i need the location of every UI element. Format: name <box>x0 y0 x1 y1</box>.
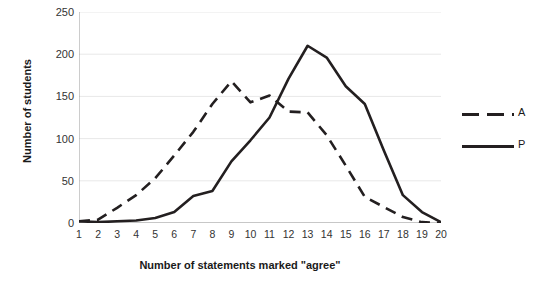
x-axis-tick-label: 14 <box>317 228 337 240</box>
x-axis-tick-label: 10 <box>240 228 260 240</box>
plot-area <box>79 12 441 223</box>
x-axis-tick-label: 2 <box>88 228 108 240</box>
x-axis-tick-label: 19 <box>412 228 432 240</box>
y-axis-tick-label: 0 <box>40 218 74 228</box>
x-axis-tick-labels: 1234567891011121314151617181920 <box>79 228 441 244</box>
y-axis-tick-label: 250 <box>40 7 74 17</box>
x-axis-tick-label: 8 <box>202 228 222 240</box>
x-axis-tick-label: 17 <box>374 228 394 240</box>
x-axis-title: Number of statements marked "agree" <box>60 259 420 271</box>
y-axis-tick-label: 200 <box>40 49 74 59</box>
y-axis-title: Number of students <box>21 26 33 196</box>
x-axis-tick-label: 18 <box>393 228 413 240</box>
legend-item-P[interactable]: P <box>462 136 536 168</box>
x-axis-tick-label: 4 <box>126 228 146 240</box>
x-axis-tick-label: 12 <box>279 228 299 240</box>
x-axis-tick-label: 20 <box>431 228 451 240</box>
x-axis-tick-label: 16 <box>355 228 375 240</box>
x-axis-tick-label: 15 <box>336 228 356 240</box>
legend-label-A: A <box>518 106 525 118</box>
x-axis-tick-label: 11 <box>260 228 280 240</box>
legend-swatch-P <box>462 145 514 148</box>
chart-plot-svg <box>79 12 441 223</box>
legend-item-A[interactable]: A <box>462 104 536 136</box>
x-axis-tick-label: 3 <box>107 228 127 240</box>
data-series-A <box>79 81 441 223</box>
y-axis-tick-label: 100 <box>40 134 74 144</box>
x-axis-tick-label: 5 <box>145 228 165 240</box>
y-axis-tick-label: 150 <box>40 91 74 101</box>
legend-swatch-A <box>462 113 514 116</box>
x-axis-tick-label: 13 <box>298 228 318 240</box>
x-axis-tick-label: 1 <box>69 228 89 240</box>
x-axis-tick-label: 9 <box>221 228 241 240</box>
y-axis-tick-labels: 050100150200250 <box>38 12 74 223</box>
x-axis-tick-label: 7 <box>183 228 203 240</box>
y-axis-tick-label: 50 <box>40 176 74 186</box>
chart-container: Number of students 050100150200250 12345… <box>0 0 542 285</box>
chart-legend: AP <box>462 104 536 168</box>
legend-label-P: P <box>518 138 525 150</box>
x-axis-tick-label: 6 <box>164 228 184 240</box>
